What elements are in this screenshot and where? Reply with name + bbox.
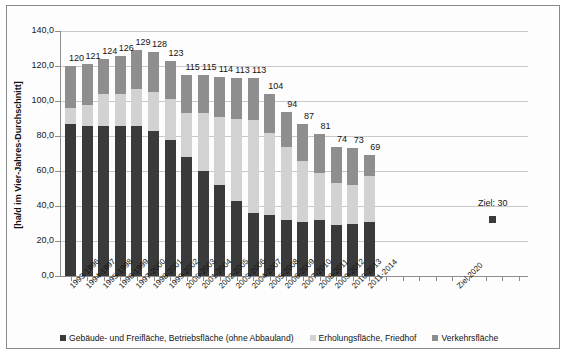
bar-segment-verkehr (248, 78, 259, 120)
target-annotation-marker (489, 216, 496, 223)
bar-segment-verkehr (264, 94, 275, 133)
bar-segment-erholung (82, 105, 93, 126)
legend-swatch-icon (60, 335, 66, 341)
bar-segment-erholung (131, 89, 142, 126)
bar-segment-erholung (297, 161, 308, 222)
bar-segment-erholung (331, 183, 342, 225)
bar-segment-verkehr (281, 112, 292, 147)
bar-segment-verkehr (131, 50, 142, 89)
bar-segment-erholung (98, 94, 109, 126)
bar-stack[interactable] (264, 94, 275, 276)
bar-stack[interactable] (65, 66, 76, 276)
bar-segment-gebaeude (181, 157, 192, 276)
legend-label: Erholungsfläche, Friedhof (319, 333, 417, 343)
bar-segment-erholung (364, 176, 375, 222)
y-tick-label: 40,0 (12, 200, 54, 210)
bar-value-label: 87 (298, 111, 320, 121)
bar-stack[interactable] (214, 77, 225, 277)
bar-segment-erholung (115, 94, 126, 126)
bar-stack[interactable] (347, 148, 358, 276)
bar-stack[interactable] (115, 56, 126, 277)
bar-segment-gebaeude (82, 126, 93, 277)
bar-segment-erholung (165, 99, 176, 139)
bar-segment-verkehr (198, 75, 209, 114)
y-tick-label: 140,0 (12, 25, 54, 35)
bar-segment-verkehr (347, 148, 358, 185)
x-tick-mark (419, 277, 420, 281)
bar-segment-verkehr (98, 59, 109, 94)
x-tick-mark (403, 277, 404, 281)
bar-segment-gebaeude (115, 126, 126, 277)
bar-stack[interactable] (314, 134, 325, 276)
y-tick-label: 80,0 (12, 130, 54, 140)
bar-segment-erholung (231, 119, 242, 201)
x-tick-mark (519, 277, 520, 281)
bar-segment-verkehr (214, 77, 225, 117)
bar-segment-erholung (314, 173, 325, 220)
bar-value-label: 113 (248, 65, 270, 75)
chart-root: [ha/d im Vier-Jahres-Durchschnitt] 0,020… (0, 0, 568, 358)
y-tick-label: 0,0 (12, 270, 54, 280)
bar-value-label: 69 (364, 142, 386, 152)
bar-stack[interactable] (248, 78, 259, 276)
legend-item[interactable]: Verkehrsfläche (432, 333, 498, 343)
x-tick-mark (452, 277, 453, 281)
y-tick-label: 100,0 (12, 95, 54, 105)
bar-segment-verkehr (65, 66, 76, 108)
y-tick-label: 60,0 (12, 165, 54, 175)
bar-stack[interactable] (148, 52, 159, 276)
bar-value-label: 81 (315, 121, 337, 131)
x-tick-mark (502, 277, 503, 281)
x-tick-mark (436, 277, 437, 281)
bar-stack[interactable] (82, 64, 93, 276)
bar-segment-verkehr (82, 64, 93, 104)
bar-value-label: 104 (265, 81, 287, 91)
legend-label: Gebäude- und Freifläche, Betriebsfläche … (69, 333, 294, 343)
bar-segment-erholung (281, 147, 292, 221)
bar-stack[interactable] (297, 124, 308, 276)
bar-segment-verkehr (297, 124, 308, 161)
bar-segment-gebaeude (65, 124, 76, 276)
bar-stack[interactable] (231, 78, 242, 276)
y-tick-label: 120,0 (12, 60, 54, 70)
bar-segment-erholung (347, 185, 358, 224)
legend-swatch-icon (432, 335, 438, 341)
bar-stack[interactable] (181, 75, 192, 276)
bar-segment-erholung (148, 92, 159, 131)
bar-value-label: 94 (281, 99, 303, 109)
bar-segment-verkehr (231, 78, 242, 118)
bar-value-label: 123 (165, 48, 187, 58)
bar-segment-verkehr (115, 56, 126, 95)
bar-segment-verkehr (314, 134, 325, 173)
chart-legend: Gebäude- und Freifläche, Betriebsfläche … (60, 331, 528, 345)
bar-segment-gebaeude (148, 131, 159, 276)
bar-stack[interactable] (131, 50, 142, 276)
legend-swatch-icon (310, 335, 316, 341)
bar-stack[interactable] (165, 61, 176, 276)
bar-segment-erholung (181, 113, 192, 157)
target-annotation-label: Ziel: 30 (478, 198, 508, 208)
bar-segment-verkehr (148, 52, 159, 92)
x-tick-mark (486, 277, 487, 281)
x-tick-mark (386, 277, 387, 281)
legend-item[interactable]: Gebäude- und Freifläche, Betriebsfläche … (60, 333, 294, 343)
bar-segment-erholung (248, 120, 259, 213)
bar-segment-erholung (65, 108, 76, 124)
bar-segment-erholung (264, 133, 275, 215)
bar-segment-gebaeude (165, 140, 176, 277)
bar-segment-gebaeude (98, 126, 109, 277)
bar-segment-verkehr (165, 61, 176, 100)
bar-segment-erholung (198, 113, 209, 171)
bar-stack[interactable] (281, 112, 292, 277)
bar-stack[interactable] (331, 147, 342, 277)
legend-item[interactable]: Erholungsfläche, Friedhof (310, 333, 417, 343)
bar-segment-gebaeude (131, 126, 142, 277)
bar-stack[interactable] (198, 75, 209, 276)
bar-segment-verkehr (364, 155, 375, 176)
bar-segment-verkehr (331, 147, 342, 184)
y-tick-label: 20,0 (12, 235, 54, 245)
bar-stack[interactable] (364, 155, 375, 276)
bar-stack[interactable] (98, 59, 109, 276)
bar-segment-verkehr (181, 75, 192, 114)
bar-segment-erholung (214, 117, 225, 185)
